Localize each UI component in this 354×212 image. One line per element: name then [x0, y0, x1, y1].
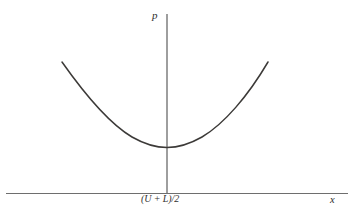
figure-container: p x (U + L)/2: [0, 0, 354, 212]
y-axis-label: p: [152, 9, 158, 21]
x-axis-label: x: [330, 194, 335, 205]
parabola-curve: [62, 62, 268, 148]
plot-area: [0, 0, 354, 212]
x-axis-tick-label-center: (U + L)/2: [141, 193, 179, 204]
